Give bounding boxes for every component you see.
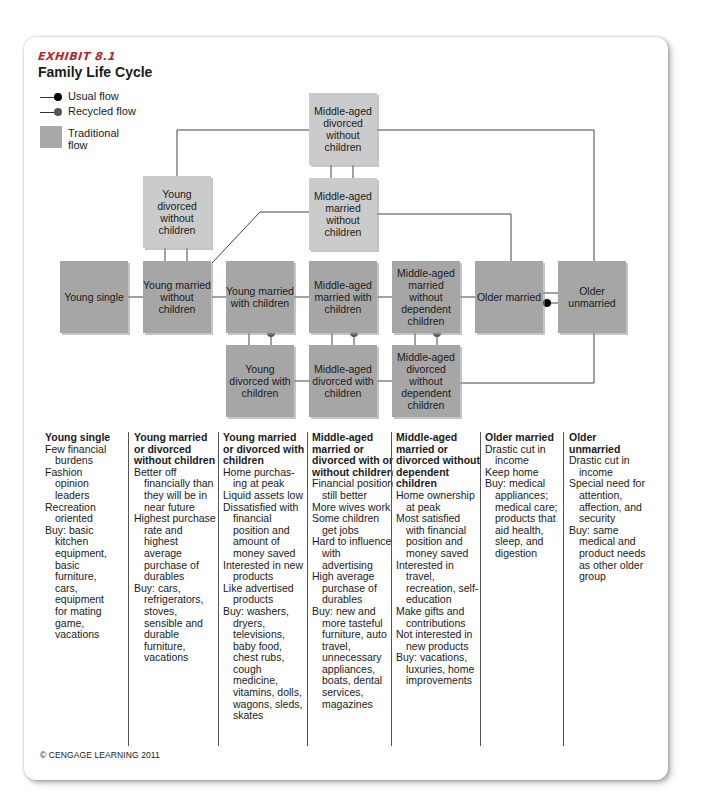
column-divider (128, 432, 129, 746)
column-heading: Older married (485, 432, 565, 444)
column-middle-aged-with-or-without-children: Middle-aged married or divorced with or … (312, 432, 394, 710)
column-item: Buy: basic kitchen equipment, basic furn… (45, 525, 117, 641)
column-item: Hard to influence with advertising (312, 536, 394, 571)
column-item: Like advertised products (223, 583, 307, 606)
column-young-married-or-divorced-without-children: Young married or divorced without childr… (134, 432, 218, 664)
column-item: Make gifts and contributions (396, 606, 480, 629)
column-item: Buy: washers, dryers, televisions, baby … (223, 606, 307, 722)
column-item: Buy: new and more tasteful furniture, au… (312, 606, 394, 710)
column-older-unmarried: Older unmarried Drastic cut in income Sp… (569, 432, 649, 583)
column-divider (563, 432, 564, 746)
node-young-married-with-children: Young married with children (226, 261, 294, 333)
node-middle-aged-divorced-without-children: Middle-aged divorced without children (309, 93, 377, 165)
node-middle-aged-married-without-children: Middle-aged married without children (309, 178, 377, 250)
column-heading: Older unmarried (569, 432, 649, 455)
column-divider (307, 432, 308, 746)
column-heading: Middle-aged married or divorced without … (396, 432, 480, 490)
column-item: Highest purchase rate and highest averag… (134, 513, 218, 583)
node-middle-aged-married-without-dependent-children: Middle-aged married without dependent ch… (392, 261, 460, 333)
column-item: Interested in new products (223, 560, 307, 583)
column-divider (391, 432, 392, 746)
column-item: High average purchase of durables (312, 571, 394, 606)
node-middle-aged-divorced-without-dependent-children: Middle-aged divorced without dependent c… (392, 345, 460, 417)
column-item: Drastic cut in income (485, 444, 565, 467)
node-older-unmarried: Older unmarried (558, 261, 626, 333)
node-young-divorced-without-children: Young divorced without children (143, 176, 211, 248)
column-item: Better off financially than they will be… (134, 467, 218, 513)
column-item: Interested in travel, recreation, self-e… (396, 560, 480, 606)
column-heading: Young married or divorced with children (223, 432, 307, 467)
column-older-married: Older married Drastic cut in income Keep… (485, 432, 565, 560)
column-item: Buy: same medical and product needs as o… (569, 525, 649, 583)
column-item: Buy: medical appliances; medical care; p… (485, 478, 565, 559)
column-item: Recreation oriented (45, 502, 117, 525)
column-item: Few financial burdens (45, 444, 117, 467)
column-item: Buy: vacations, luxuries, home improveme… (396, 652, 480, 687)
node-middle-aged-married-with-children: Middle-aged married with children (309, 261, 377, 333)
node-young-single: Young single (60, 261, 128, 333)
column-item: Buy: cars, refrigerators, stoves, sensib… (134, 583, 218, 664)
column-young-married-or-divorced-with-children: Young married or divorced with children … (223, 432, 307, 722)
column-middle-aged-without-dependent-children: Middle-aged married or divorced without … (396, 432, 480, 687)
copyright-footer: © CENGAGE LEARNING 2011 (40, 750, 160, 760)
column-item: Special need for attention, affection, a… (569, 478, 649, 524)
column-item: Home ownership at peak (396, 490, 480, 513)
column-heading: Young single (45, 432, 117, 444)
column-heading: Middle-aged married or divorced with or … (312, 432, 394, 478)
column-item: Most satisfied with financial position a… (396, 513, 480, 559)
node-older-married: Older married (475, 261, 543, 333)
column-item: Not interested in new products (396, 629, 480, 652)
column-item: Some children get jobs (312, 513, 394, 536)
column-divider (218, 432, 219, 746)
column-heading: Young married or divorced without childr… (134, 432, 218, 467)
column-item: Home purchas-ing at peak (223, 467, 307, 490)
node-middle-aged-divorced-with-children: Middle-aged divorced with children (309, 345, 377, 417)
column-item: Drastic cut in income (569, 455, 649, 478)
column-item: Dissatisfied with financial position and… (223, 502, 307, 560)
column-item: Liquid assets low (223, 490, 307, 502)
node-young-divorced-with-children: Young divorced with children (226, 345, 294, 417)
column-young-single: Young single Few financial burdens Fashi… (45, 432, 117, 641)
node-young-married-without-children: Young married without children (143, 261, 211, 333)
column-divider (480, 432, 481, 746)
column-item: Fashion opinion leaders (45, 467, 117, 502)
column-item: Financial position still better (312, 478, 394, 501)
